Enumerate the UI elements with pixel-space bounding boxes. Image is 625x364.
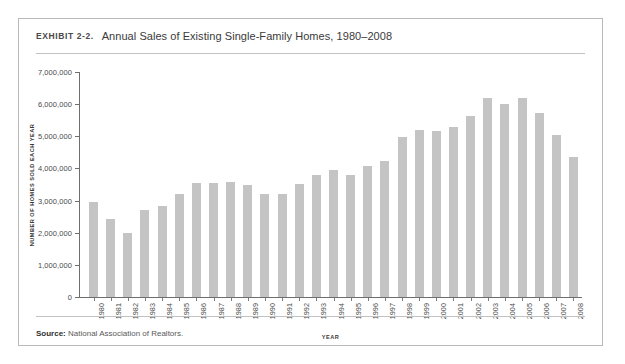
- x-axis-tick: [299, 298, 300, 301]
- x-axis-title: YEAR: [322, 334, 340, 340]
- bar: [175, 194, 184, 297]
- bar: [500, 104, 509, 297]
- bar: [380, 161, 389, 297]
- bar: [226, 182, 235, 297]
- x-axis-tick: [179, 298, 180, 301]
- bar: [466, 116, 475, 297]
- x-axis-tick: [471, 298, 472, 301]
- y-axis-tick-label: 4,000,000: [38, 164, 72, 173]
- x-axis-tick: [556, 298, 557, 301]
- y-axis-tick: [75, 72, 79, 73]
- x-axis-tick: [214, 298, 215, 301]
- chart-plot-area: NUMBER OF HOMES SOLD EACH YEAR YEAR 01,0…: [79, 72, 582, 298]
- bar: [192, 183, 201, 297]
- x-axis-tick: [111, 298, 112, 301]
- source-label: Source:: [36, 329, 66, 338]
- y-axis-tick-label: 1,000,000: [38, 260, 72, 269]
- bar: [312, 175, 321, 297]
- bar: [243, 185, 252, 297]
- x-axis-tick: [573, 298, 574, 301]
- bar: [346, 175, 355, 297]
- x-axis-tick: [368, 298, 369, 301]
- x-axis-tick: [505, 298, 506, 301]
- bar: [123, 233, 132, 297]
- x-axis-tick: [539, 298, 540, 301]
- y-axis-tick: [75, 201, 79, 202]
- y-axis-tick: [75, 233, 79, 234]
- bar: [89, 202, 98, 297]
- source-value: National Association of Realtors.: [68, 329, 183, 338]
- y-axis-tick: [75, 265, 79, 266]
- exhibit-figure: Exhibit 2-2. Annual Sales of Existing Si…: [18, 18, 603, 346]
- source-divider: [36, 316, 585, 317]
- x-axis-tick: [196, 298, 197, 301]
- y-axis-tick: [75, 297, 79, 298]
- bar: [295, 184, 304, 297]
- bar: [363, 166, 372, 297]
- y-axis-title: NUMBER OF HOMES SOLD EACH YEAR: [29, 124, 35, 247]
- x-axis-tick: [436, 298, 437, 301]
- y-axis-tick-label: 0: [68, 293, 72, 302]
- x-axis-tick: [162, 298, 163, 301]
- y-axis-tick: [75, 136, 79, 137]
- x-axis-tick: [282, 298, 283, 301]
- x-axis-tick: [351, 298, 352, 301]
- x-axis-tick: [385, 298, 386, 301]
- bar: [398, 137, 407, 297]
- bar: [569, 157, 578, 297]
- bar: [449, 127, 458, 297]
- source-note: Source: National Association of Realtors…: [36, 329, 183, 338]
- title-divider: [36, 53, 585, 54]
- y-axis-tick-label: 5,000,000: [38, 132, 72, 141]
- y-axis-tick: [75, 168, 79, 169]
- x-axis-tick: [231, 298, 232, 301]
- figure-title-row: Exhibit 2-2. Annual Sales of Existing Si…: [19, 19, 602, 53]
- y-axis-tick: [75, 104, 79, 105]
- x-axis-tick: [316, 298, 317, 301]
- x-axis-line: [79, 297, 582, 298]
- exhibit-number-label: Exhibit 2-2.: [36, 31, 94, 41]
- x-axis-tick: [522, 298, 523, 301]
- bar: [140, 210, 149, 297]
- bar: [209, 183, 218, 297]
- bar: [260, 194, 269, 298]
- x-axis-tick: [128, 298, 129, 301]
- bar: [432, 131, 441, 297]
- x-axis-tick: [94, 298, 95, 301]
- bar: [535, 113, 544, 297]
- bar: [278, 194, 287, 298]
- bar: [415, 130, 424, 297]
- x-axis-tick: [402, 298, 403, 301]
- bar: [329, 170, 338, 297]
- x-axis-tick: [248, 298, 249, 301]
- x-axis-tick: [419, 298, 420, 301]
- bar: [106, 219, 115, 297]
- y-axis-line: [79, 72, 80, 298]
- page-title: Annual Sales of Existing Single-Family H…: [102, 30, 392, 42]
- x-axis-tick: [453, 298, 454, 301]
- bar: [158, 206, 167, 297]
- x-axis-tick: [334, 298, 335, 301]
- y-axis-tick-label: 2,000,000: [38, 228, 72, 237]
- y-axis-tick-label: 3,000,000: [38, 196, 72, 205]
- y-axis-tick-label: 7,000,000: [38, 68, 72, 77]
- bar: [483, 98, 492, 297]
- x-axis-tick: [145, 298, 146, 301]
- bar: [518, 98, 527, 297]
- x-axis-tick: [488, 298, 489, 301]
- y-axis-tick-label: 6,000,000: [38, 100, 72, 109]
- bar: [552, 135, 561, 297]
- x-axis-tick: [265, 298, 266, 301]
